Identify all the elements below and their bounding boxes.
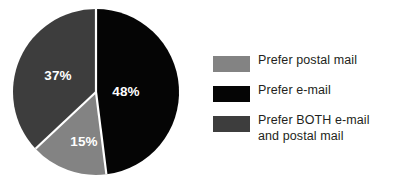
chart-legend: Prefer postal mail Prefer e-mail Prefer … xyxy=(213,53,399,144)
pie-chart: 48% 15% 37% xyxy=(0,0,200,189)
pie-label-37-percent: 37% xyxy=(44,68,72,83)
legend-item-prefer-postal-mail[interactable]: Prefer postal mail xyxy=(213,53,399,72)
legend-swatch-icon-both xyxy=(213,116,250,132)
legend-swatch-icon-postal-mail xyxy=(213,56,250,72)
legend-item-prefer-e-mail[interactable]: Prefer e-mail xyxy=(213,83,399,102)
pie-chart-figure: 48% 15% 37% Prefer postal mail Prefer e-… xyxy=(0,0,403,189)
legend-label-postal-mail: Prefer postal mail xyxy=(258,53,357,69)
pie-chart-svg: 48% 15% 37% xyxy=(0,0,200,189)
pie-label-48-percent: 48% xyxy=(112,84,140,99)
legend-item-prefer-both[interactable]: Prefer BOTH e-mail and postal mail xyxy=(213,113,399,144)
legend-label-e-mail: Prefer e-mail xyxy=(258,83,331,99)
legend-swatch-icon-e-mail xyxy=(213,86,250,102)
legend-label-both: Prefer BOTH e-mail and postal mail xyxy=(258,113,370,144)
pie-label-15-percent: 15% xyxy=(70,134,98,149)
